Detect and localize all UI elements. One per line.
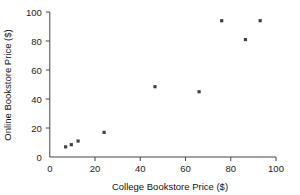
y-axis-title: Online Bookstore Price ($)	[2, 29, 13, 140]
x-tick-label: 20	[90, 163, 101, 174]
x-tick-label: 80	[225, 163, 236, 174]
data-point	[76, 139, 79, 142]
y-tick-label: 80	[31, 36, 42, 47]
data-point	[197, 90, 200, 93]
x-tick-label: 40	[135, 163, 146, 174]
data-point	[64, 145, 67, 148]
data-point	[244, 38, 247, 41]
x-tick-label: 0	[47, 163, 52, 174]
data-point	[220, 19, 223, 22]
y-tick-label: 0	[37, 152, 42, 163]
x-axis-title: College Bookstore Price ($)	[112, 181, 228, 192]
data-point	[70, 143, 73, 146]
x-tick-label: 60	[180, 163, 191, 174]
y-tick-label: 40	[31, 94, 42, 105]
y-tick-label: 20	[31, 123, 42, 134]
data-points-group	[64, 19, 262, 148]
chart-canvas: 020406080100020406080100 College Booksto…	[0, 0, 300, 195]
data-point	[259, 19, 262, 22]
y-tick-label: 100	[26, 7, 42, 18]
tick-labels-group: 020406080100020406080100	[26, 7, 284, 175]
data-point	[153, 85, 156, 88]
x-tick-label: 100	[268, 163, 284, 174]
y-tick-label: 60	[31, 65, 42, 76]
ticks-group	[46, 12, 276, 161]
data-point	[102, 131, 105, 134]
scatter-plot-figure: 020406080100020406080100 College Booksto…	[0, 0, 300, 195]
axes-group	[50, 12, 276, 157]
